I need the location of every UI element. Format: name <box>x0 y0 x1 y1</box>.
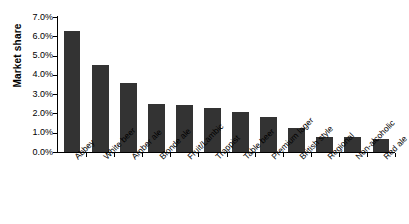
x-axis-tick-mark <box>114 153 115 157</box>
y-axis-tick-label: 3.0% <box>18 90 53 99</box>
y-axis-tick-mark <box>53 113 57 114</box>
y-axis-tick-label: 6.0% <box>18 32 53 41</box>
y-axis-tick-mark <box>53 133 57 134</box>
y-axis-tick-mark <box>53 152 57 153</box>
y-axis-tick-label: 5.0% <box>18 51 53 60</box>
y-axis-tick-label: 4.0% <box>18 70 53 79</box>
y-axis-tick-mark <box>53 56 57 57</box>
y-axis-tick-mark <box>53 94 57 95</box>
bar <box>92 65 109 152</box>
x-axis-tick-mark <box>339 153 340 157</box>
x-axis-tick-mark <box>227 153 228 157</box>
x-axis-tick-label-group: AbbeyWhite beerAmber aleBlonde aleFruit/… <box>0 155 402 224</box>
x-axis-tick-mark <box>142 153 143 157</box>
y-axis-tick-mark <box>53 36 57 37</box>
x-axis-tick-mark <box>283 153 284 157</box>
y-axis-tick-label-group: 7.0%6.0%5.0%4.0%3.0%2.0%1.0%0.0% <box>18 17 53 152</box>
x-axis-tick-mark <box>395 153 396 157</box>
x-axis-tick-mark <box>367 153 368 157</box>
plot-area <box>58 17 395 152</box>
x-axis-tick-mark <box>198 153 199 157</box>
bar <box>64 31 81 153</box>
y-axis-tick-mark <box>53 17 57 18</box>
x-axis-tick-mark <box>170 153 171 157</box>
x-axis-tick-mark <box>255 153 256 157</box>
y-axis-tick-label: 1.0% <box>18 128 53 137</box>
y-axis-tick-label: 2.0% <box>18 109 53 118</box>
y-axis-tick-label: 7.0% <box>18 13 53 22</box>
y-axis-tick-mark <box>53 75 57 76</box>
x-axis-tick-mark <box>311 153 312 157</box>
x-axis-tick-mark <box>86 153 87 157</box>
